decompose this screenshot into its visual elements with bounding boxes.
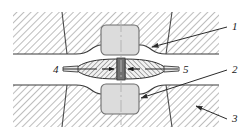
callout-4-label: 4 bbox=[53, 63, 59, 75]
diagram-canvas: 1 2 3 4 5 bbox=[0, 0, 244, 139]
lower-electrode bbox=[101, 84, 139, 114]
callout-1-label: 1 bbox=[232, 20, 238, 32]
callout-5-label: 5 bbox=[183, 63, 189, 75]
callout-3-label: 3 bbox=[231, 112, 238, 124]
upper-electrode bbox=[101, 25, 139, 55]
weld-cross-section-diagram: 1 2 3 4 5 bbox=[0, 0, 244, 139]
callout-2-label: 2 bbox=[232, 63, 238, 75]
